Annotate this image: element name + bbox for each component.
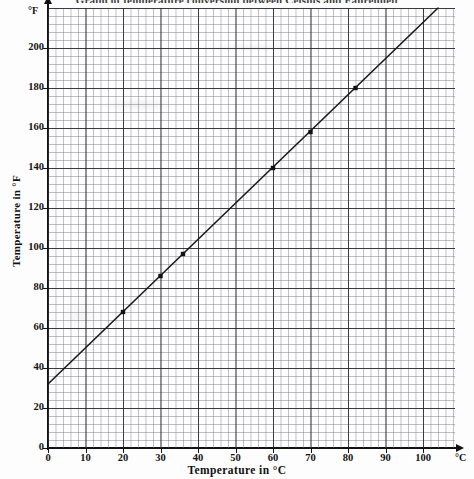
data-point-marker bbox=[271, 166, 275, 170]
conversion-line-segment bbox=[48, 8, 438, 384]
data-point-marker bbox=[121, 310, 125, 314]
data-point-marker bbox=[353, 86, 357, 90]
conversion-line bbox=[48, 8, 438, 384]
data-layer bbox=[0, 0, 474, 479]
temperature-conversion-chart: Graph of temperature conversion between … bbox=[0, 0, 474, 479]
data-point-marker bbox=[181, 252, 185, 256]
data-point-marker bbox=[308, 130, 312, 134]
data-point-marker bbox=[158, 274, 162, 278]
